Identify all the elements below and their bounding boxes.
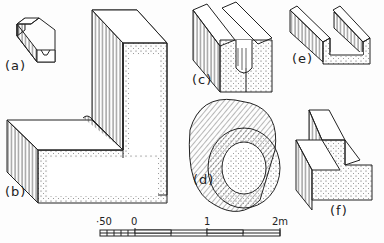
scale-tick-2m: 2m — [272, 216, 288, 227]
panel-f-drawing — [296, 110, 372, 210]
scale-bar — [100, 228, 280, 236]
drawing — [0, 0, 384, 243]
figure: (a) (b) (c) (d) (e) (f) ·50 0 1 2m — [0, 0, 384, 243]
scale-tick-1: 1 — [204, 216, 210, 227]
panel-d-label: (d) — [193, 172, 214, 187]
panel-e-label: (e) — [292, 51, 313, 66]
panel-a-drawing — [17, 18, 55, 62]
scale-tick-minus50: ·50 — [96, 216, 112, 227]
panel-b-drawing — [7, 10, 167, 203]
panel-d-drawing — [189, 99, 280, 211]
scale-tick-0: 0 — [131, 216, 137, 227]
panel-a-label: (a) — [5, 58, 26, 73]
panel-b-label: (b) — [5, 184, 26, 199]
panel-c-label: (c) — [192, 72, 212, 87]
panel-f-label: (f) — [330, 203, 348, 218]
